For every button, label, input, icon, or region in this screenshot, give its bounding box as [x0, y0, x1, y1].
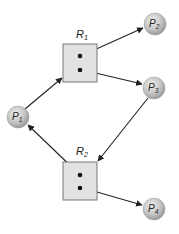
resource-r1-instance-dot: [78, 68, 83, 73]
resource-r2-instance-dot: [78, 186, 83, 191]
process-p1: P1: [7, 106, 29, 128]
resource-r2-instance-dot: [78, 173, 83, 178]
process-p2: P2: [144, 13, 166, 35]
resource-r1: R1: [63, 28, 97, 82]
resource-r2-label: R2: [76, 145, 88, 158]
edge-p3-to-r2: [98, 98, 148, 161]
process-p3: P3: [143, 77, 165, 99]
resource-allocation-graph: R1 R2 P1 P2 P3 P4: [0, 0, 179, 234]
resource-r2: R2: [63, 145, 97, 200]
resource-r1-box: [63, 44, 97, 82]
edge-p1-to-r1: [25, 78, 62, 109]
resource-r2-box: [63, 162, 97, 200]
process-p4: P4: [143, 198, 165, 220]
resource-r1-label: R1: [76, 28, 88, 41]
resource-r1-instance-dot: [78, 54, 83, 59]
